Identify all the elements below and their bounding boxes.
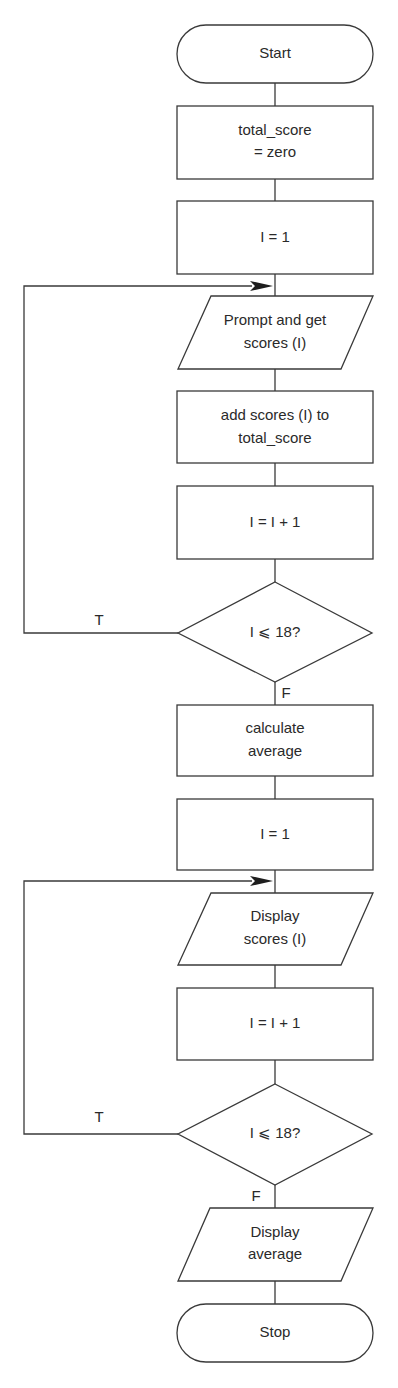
- branch-label-true: T: [94, 611, 103, 628]
- node-prompt-scores: Prompt and get scores (I): [178, 296, 373, 369]
- node-label: Stop: [260, 1323, 291, 1340]
- node-label: I = 1: [260, 228, 290, 245]
- node-label-line-1: add scores (I) to: [221, 406, 329, 423]
- node-label-line-2: scores (I): [244, 334, 307, 351]
- node-calc-average: calculate average: [177, 705, 373, 776]
- node-label-line-1: Display: [250, 1223, 300, 1240]
- branch-label-true: T: [94, 1108, 103, 1125]
- node-label-line-1: total_score: [238, 121, 311, 138]
- node-label-line-2: total_score: [238, 429, 311, 446]
- node-label-line-2: average: [248, 1245, 302, 1262]
- node-decision-1: I ⩽ 18?: [178, 582, 372, 682]
- node-label: I = I + 1: [250, 513, 301, 530]
- node-init-i-1: I = 1: [177, 201, 373, 274]
- node-label-line-1: calculate: [245, 719, 304, 736]
- arrowhead-icon: [250, 281, 273, 291]
- flowchart: Start total_score = zero I = 1 Prompt an…: [0, 0, 398, 1388]
- node-display-average: Display average: [178, 1208, 373, 1281]
- node-label: I = 1: [260, 825, 290, 842]
- node-stop: Stop: [177, 1304, 373, 1362]
- branch-label-false: F: [251, 1187, 260, 1204]
- decision-label: I ⩽ 18?: [250, 1124, 301, 1141]
- arrowhead-icon: [250, 876, 273, 886]
- node-increment-2: I = I + 1: [177, 988, 373, 1060]
- node-label-line-2: average: [248, 742, 302, 759]
- node-init-i-2: I = 1: [177, 799, 373, 870]
- node-start: Start: [177, 25, 373, 83]
- decision-label: I ⩽ 18?: [250, 623, 301, 640]
- node-label-line-1: Prompt and get: [224, 311, 327, 328]
- branch-label-false: F: [281, 684, 290, 701]
- node-label: Start: [259, 44, 292, 61]
- node-display-scores: Display scores (I): [178, 893, 373, 965]
- node-label: I = I + 1: [250, 1014, 301, 1031]
- node-label-line-1: Display: [250, 907, 300, 924]
- node-increment-1: I = I + 1: [177, 486, 373, 559]
- node-init-total: total_score = zero: [177, 106, 373, 179]
- node-add-scores: add scores (I) to total_score: [177, 391, 373, 463]
- node-decision-2: I ⩽ 18?: [178, 1084, 372, 1185]
- node-label-line-2: = zero: [254, 143, 296, 160]
- node-label-line-2: scores (I): [244, 930, 307, 947]
